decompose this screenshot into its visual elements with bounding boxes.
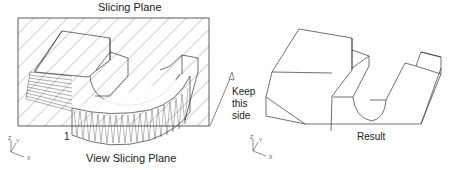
axis-y-label-left: Y xyxy=(16,136,19,147)
result-caption: Result xyxy=(357,131,385,142)
marker-label: 1 xyxy=(64,131,70,142)
keep-label-line3: side xyxy=(232,110,250,121)
axis-x-label-right: X xyxy=(269,152,272,163)
axis-z-label-left: Z xyxy=(8,133,11,144)
diagram-canvas xyxy=(0,0,449,170)
slicing-plane-title: Slicing Plane xyxy=(98,2,162,13)
axis-y-label-right: Y xyxy=(259,135,262,146)
keep-label-line2: this xyxy=(232,98,248,109)
keep-side-arrow xyxy=(210,72,234,126)
axis-z-label-right: Z xyxy=(250,132,253,143)
keep-label-line1: Keep xyxy=(232,86,255,97)
view-slicing-plane-caption: View Slicing Plane xyxy=(86,153,176,164)
part-result xyxy=(266,29,441,131)
axis-x-label-left: X xyxy=(27,153,30,164)
